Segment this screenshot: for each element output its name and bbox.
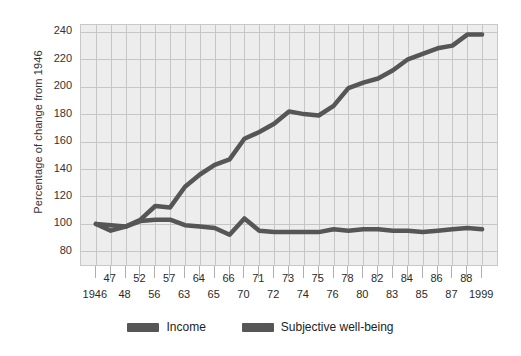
series-lines bbox=[81, 25, 497, 265]
x-axis-tick-label: 73 bbox=[282, 272, 294, 284]
x-axis-tick-label: 82 bbox=[371, 272, 383, 284]
y-axis-tick-label: 80 bbox=[60, 245, 72, 256]
x-axis-tick-label: 47 bbox=[104, 272, 116, 284]
x-axis-tick-label: 84 bbox=[401, 272, 413, 284]
y-axis-tick-label: 180 bbox=[54, 108, 72, 119]
y-axis-tick-label: 140 bbox=[54, 163, 72, 174]
series-line bbox=[96, 35, 482, 227]
y-axis-tick-label: 100 bbox=[54, 217, 72, 228]
x-axis-tick-label: 72 bbox=[267, 288, 279, 300]
x-axis-tick-label: 63 bbox=[178, 288, 190, 300]
x-axis-tick-label: 66 bbox=[222, 272, 234, 284]
x-axis-tick-labels: 1946474852565763646566707172737475767880… bbox=[80, 272, 498, 304]
x-axis-tick-label: 88 bbox=[460, 272, 472, 284]
x-axis-tick-label: 83 bbox=[386, 288, 398, 300]
y-axis-tick-label: 220 bbox=[54, 53, 72, 64]
x-axis-tick-label: 64 bbox=[193, 272, 205, 284]
y-axis-tick-label: 200 bbox=[54, 80, 72, 91]
chart-figure: Percentage of change from 1946 240220200… bbox=[0, 0, 521, 356]
x-axis-tick-label: 1946 bbox=[83, 288, 107, 300]
x-axis-tick-label: 48 bbox=[118, 288, 130, 300]
x-axis-tick-label: 70 bbox=[237, 288, 249, 300]
y-axis-tick-label: 120 bbox=[54, 190, 72, 201]
x-axis-tick-label: 71 bbox=[252, 272, 264, 284]
legend-item-income: Income bbox=[127, 320, 205, 334]
y-axis-tick-label: 160 bbox=[54, 135, 72, 146]
x-axis-tick-label: 56 bbox=[148, 288, 160, 300]
x-axis-tick-label: 52 bbox=[133, 272, 145, 284]
x-axis-tick-label: 87 bbox=[445, 288, 457, 300]
x-axis-tick-label: 80 bbox=[356, 288, 368, 300]
plot-area bbox=[80, 24, 498, 266]
chart-legend: Income Subjective well-being bbox=[0, 320, 521, 334]
x-axis-tick-label: 75 bbox=[312, 272, 324, 284]
y-axis-tick-labels: 24022020018016014012010080 bbox=[38, 18, 72, 254]
legend-label: Income bbox=[166, 320, 205, 334]
x-axis-tick-label: 76 bbox=[326, 288, 338, 300]
x-axis-tick-label: 74 bbox=[297, 288, 309, 300]
x-axis-tick-label: 57 bbox=[163, 272, 175, 284]
y-axis-tick-label: 240 bbox=[54, 25, 72, 36]
x-axis-tick-label: 86 bbox=[430, 272, 442, 284]
legend-swatch-icon bbox=[242, 323, 274, 332]
x-axis-tick-label: 65 bbox=[208, 288, 220, 300]
series-line bbox=[96, 218, 482, 234]
legend-item-subjective-well-being: Subjective well-being bbox=[242, 320, 394, 334]
legend-label: Subjective well-being bbox=[281, 320, 394, 334]
legend-swatch-icon bbox=[127, 323, 159, 332]
x-axis-tick-label: 85 bbox=[416, 288, 428, 300]
x-axis-tick-label: 78 bbox=[341, 272, 353, 284]
x-axis-tick-label: 1999 bbox=[469, 288, 493, 300]
